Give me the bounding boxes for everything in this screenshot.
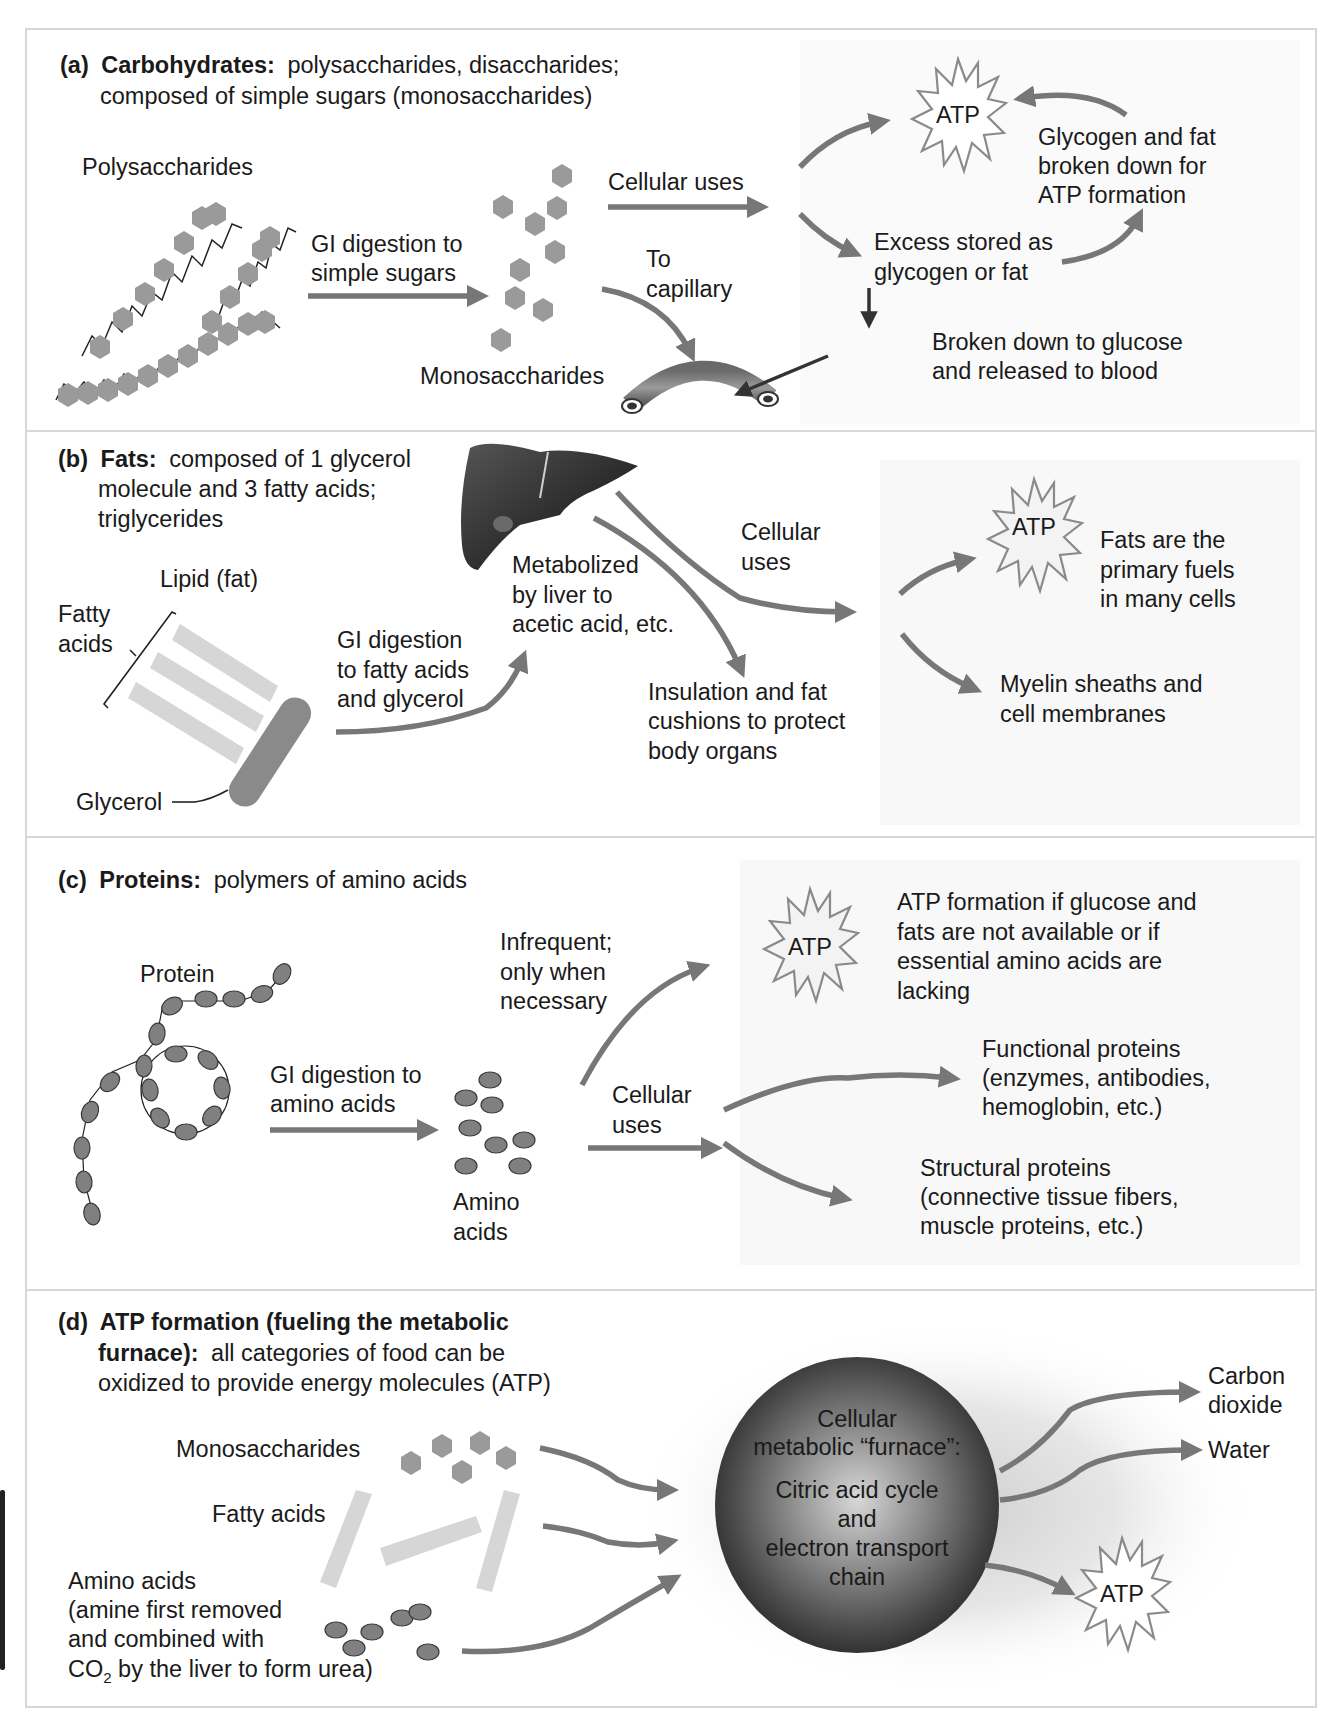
label-glycerol: Glycerol — [76, 789, 162, 815]
label-to-capillary: To — [646, 246, 671, 272]
label-insulation: Insulation and fat — [648, 679, 827, 705]
label-atp-formation-4: lacking — [897, 978, 970, 1004]
label-glycogen: Glycogen and fat — [1038, 124, 1216, 150]
label-to-capillary-2: capillary — [646, 276, 732, 302]
section-c-title: (c) Proteins: polymers of amino acids — [58, 867, 467, 893]
label-myelin-2: cell membranes — [1000, 701, 1166, 727]
label-glycogen-3: ATP formation — [1038, 182, 1186, 208]
label-monosaccharides: Monosaccharides — [420, 363, 604, 389]
label-fats-primary-3: in many cells — [1100, 586, 1236, 612]
label-myelin: Myelin sheaths and — [1000, 671, 1202, 697]
label-insulation-3: body organs — [648, 738, 777, 764]
label-fats-primary: Fats are the — [1100, 527, 1225, 553]
furnace-label-4: and — [837, 1506, 876, 1532]
label-cellular-uses: Cellular uses — [608, 169, 744, 195]
label-amino-acids-2: acids — [453, 1219, 508, 1245]
label-fats-primary-2: primary fuels — [1100, 557, 1235, 583]
label-functional-proteins-2: (enzymes, antibodies, — [982, 1065, 1211, 1091]
label-carbon-dioxide: Carbon — [1208, 1363, 1285, 1389]
label-cellular: Cellular — [741, 519, 821, 545]
label-broken-down-2: and released to blood — [932, 358, 1158, 384]
section-a-subtitle: composed of simple sugars (monosaccharid… — [100, 83, 592, 109]
label-carbon-dioxide-2: dioxide — [1208, 1392, 1282, 1418]
label-monosaccharides: Monosaccharides — [176, 1436, 360, 1462]
label-excess-2: glycogen or fat — [874, 259, 1029, 285]
furnace-label-5: electron transport — [766, 1535, 949, 1561]
label-structural-proteins-3: muscle proteins, etc.) — [920, 1213, 1143, 1239]
label-amino-acids: Amino acids — [68, 1568, 196, 1594]
label-water: Water — [1208, 1437, 1270, 1463]
furnace-label: Cellular — [817, 1406, 897, 1432]
atp-label: ATP — [936, 102, 980, 128]
section-b-title: (b) Fats: composed of 1 glycerol — [58, 446, 411, 472]
label-infrequent-3: necessary — [500, 988, 607, 1014]
label-broken-down: Broken down to glucose — [932, 329, 1183, 355]
furnace-label-2: metabolic “furnace”: — [753, 1434, 961, 1460]
label-gi-digestion-3: and glycerol — [337, 686, 464, 712]
label-amino-acids: Amino — [453, 1189, 520, 1215]
label-structural-proteins-2: (connective tissue fibers, — [920, 1184, 1179, 1210]
label-gi-digestion-2: simple sugars — [311, 260, 456, 286]
label-gi-digestion: GI digestion to — [270, 1062, 422, 1088]
label-gi-digestion: GI digestion — [337, 627, 462, 653]
label-infrequent: Infrequent; — [500, 929, 612, 955]
section-b-subtitle-2: triglycerides — [98, 506, 223, 532]
atp-label: ATP — [1012, 514, 1056, 540]
section-d-title: (d) ATP formation (fueling the metabolic — [58, 1309, 509, 1335]
atp-label: ATP — [788, 934, 832, 960]
label-cellular: Cellular — [612, 1082, 692, 1108]
section-b-subtitle: molecule and 3 fatty acids; — [98, 476, 376, 502]
label-glycogen-2: broken down for — [1038, 153, 1207, 179]
label-lipid: Lipid (fat) — [160, 566, 258, 592]
section-a-title: (a) Carbohydrates: polysaccharides, disa… — [60, 52, 619, 78]
label-atp-formation-2: fats are not available or if — [897, 919, 1160, 945]
label-fatty-acids: Fatty — [58, 601, 110, 627]
label-fatty-acids-2: acids — [58, 631, 113, 657]
label-polysaccharides: Polysaccharides — [82, 154, 253, 180]
furnace-sphere-icon — [715, 1357, 999, 1653]
label-metabolized-2: by liver to — [512, 582, 613, 608]
label-metabolized-3: acetic acid, etc. — [512, 611, 674, 637]
label-atp-formation-3: essential amino acids are — [897, 948, 1162, 974]
furnace-label-6: chain — [829, 1564, 885, 1590]
label-gi-digestion-2: to fatty acids — [337, 657, 469, 683]
section-d-subtitle: furnace): all categories of food can be — [98, 1340, 505, 1366]
label-atp-formation: ATP formation if glucose and — [897, 889, 1197, 915]
nutrient-metabolism-diagram: (a) Carbohydrates: polysaccharides, disa… — [0, 0, 1342, 1731]
atp-label: ATP — [1100, 1581, 1144, 1607]
label-excess: Excess stored as — [874, 229, 1053, 255]
label-fatty-acids: Fatty acids — [212, 1501, 326, 1527]
label-functional-proteins: Functional proteins — [982, 1036, 1181, 1062]
label-structural-proteins: Structural proteins — [920, 1155, 1111, 1181]
label-gi-digestion: GI digestion to — [311, 231, 463, 257]
label-metabolized: Metabolized — [512, 552, 639, 578]
furnace-label-3: Citric acid cycle — [775, 1477, 938, 1503]
label-infrequent-2: only when — [500, 959, 606, 985]
label-functional-proteins-3: hemoglobin, etc.) — [982, 1094, 1162, 1120]
bg-shade — [880, 460, 1300, 825]
label-amino-acids-4: CO2 by the liver to form urea) — [68, 1656, 373, 1686]
label-amino-acids-2: (amine first removed — [68, 1597, 282, 1623]
label-gi-digestion-2: amino acids — [270, 1091, 395, 1117]
label-cellular-2: uses — [612, 1112, 662, 1138]
label-cellular-2: uses — [741, 549, 791, 575]
label-insulation-2: cushions to protect — [648, 708, 846, 734]
label-protein: Protein — [140, 961, 214, 987]
section-d-subtitle-2: oxidized to provide energy molecules (AT… — [98, 1370, 551, 1396]
edge-bar — [0, 1490, 5, 1670]
label-amino-acids-3: and combined with — [68, 1626, 264, 1652]
